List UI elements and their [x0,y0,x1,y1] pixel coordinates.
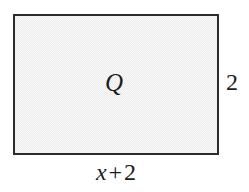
geometry-figure: Q 2 x+2 [0,0,249,192]
rectangle-shape: Q [13,14,219,155]
width-dimension-label: x+2 [13,160,219,184]
height-dimension-label: 2 [226,70,238,94]
shape-name-label: Q [105,70,123,95]
width-constant-term: 2 [124,159,136,185]
width-operator: + [107,159,125,185]
rectangle-interior-label: Q [15,16,217,153]
width-variable-term: x [96,159,107,185]
